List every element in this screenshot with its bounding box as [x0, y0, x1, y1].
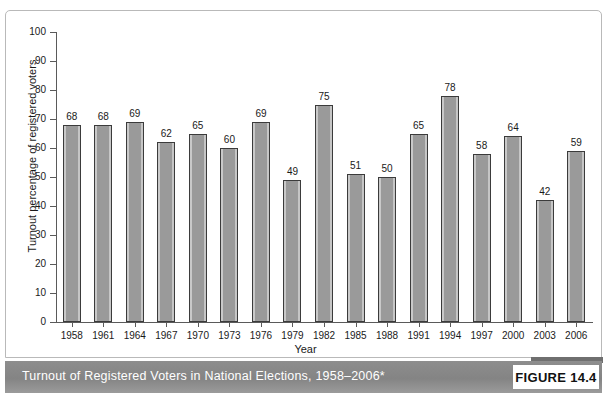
bar[interactable]: [504, 136, 522, 322]
bar[interactable]: [347, 174, 365, 322]
bar-group: 78: [441, 32, 459, 322]
bar-value-label: 62: [149, 129, 183, 139]
bar-value-label: 60: [212, 135, 246, 145]
x-axis-tick: [72, 323, 73, 327]
bar-value-label: 64: [496, 123, 530, 133]
bar-value-label: 78: [433, 83, 467, 93]
y-axis-tick: [50, 148, 56, 149]
y-axis-tick-label: 40: [6, 201, 46, 211]
bar-value-label: 65: [181, 121, 215, 131]
y-axis-tick: [50, 119, 56, 120]
y-axis-tick-label: 10: [6, 288, 46, 298]
bar-value-label: 49: [275, 167, 309, 177]
bar-group: 42: [536, 32, 554, 322]
bar[interactable]: [94, 125, 112, 322]
figure-container: Turnout percentage of registered voters …: [0, 0, 611, 403]
x-axis-title: Year: [0, 343, 611, 355]
y-axis-tick-label: 80: [6, 85, 46, 95]
figure-caption-bar: Turnout of Registered Voters in National…: [5, 361, 602, 393]
y-axis-tick: [50, 322, 56, 323]
bar[interactable]: [189, 134, 207, 323]
x-axis-tick: [261, 323, 262, 327]
bar[interactable]: [63, 125, 81, 322]
bar-value-label: 75: [307, 92, 341, 102]
y-axis-tick: [50, 293, 56, 294]
y-axis-tick: [50, 235, 56, 236]
y-axis-tick-label: 70: [6, 114, 46, 124]
bar-group: 58: [473, 32, 491, 322]
bar[interactable]: [536, 200, 554, 322]
bar-value-label: 68: [86, 112, 120, 122]
bar-value-label: 68: [55, 112, 89, 122]
bar-group: 69: [252, 32, 270, 322]
bar-value-label: 59: [559, 138, 593, 148]
x-axis-tick: [576, 323, 577, 327]
x-axis-tick: [482, 323, 483, 327]
bar-group: 62: [157, 32, 175, 322]
figure-caption-text: Turnout of Registered Voters in National…: [22, 369, 385, 383]
y-axis-tick-label: 100: [6, 27, 46, 37]
figure-badge-label: FIGURE 14.4: [515, 370, 596, 385]
bar-value-label: 50: [370, 164, 404, 174]
bar[interactable]: [410, 134, 428, 323]
x-axis-tick: [324, 323, 325, 327]
bar[interactable]: [441, 96, 459, 322]
bar-value-label: 69: [244, 109, 278, 119]
bar-group: 68: [94, 32, 112, 322]
plot-area: 6868696265606949755150657858644259: [56, 32, 592, 322]
bar-group: 51: [347, 32, 365, 322]
x-axis-tick: [513, 323, 514, 327]
x-axis-tick: [356, 323, 357, 327]
bar-group: 75: [315, 32, 333, 322]
bar[interactable]: [315, 105, 333, 323]
bar-group: 69: [126, 32, 144, 322]
bar-group: 59: [567, 32, 585, 322]
bar-group: 50: [378, 32, 396, 322]
y-axis-tick: [50, 206, 56, 207]
y-axis-tick-label: 50: [6, 172, 46, 182]
y-axis-tick: [50, 264, 56, 265]
figure-badge: FIGURE 14.4: [513, 365, 599, 389]
bar-group: 68: [63, 32, 81, 322]
x-axis-tick: [545, 323, 546, 327]
x-axis-tick: [387, 323, 388, 327]
bar[interactable]: [567, 151, 585, 322]
bar-value-label: 51: [339, 161, 373, 171]
bar-value-label: 42: [528, 187, 562, 197]
bar[interactable]: [473, 154, 491, 322]
y-axis-tick-label: 20: [6, 259, 46, 269]
y-axis-tick: [50, 61, 56, 62]
x-axis-tick: [419, 323, 420, 327]
x-axis-tick: [450, 323, 451, 327]
y-axis-tick: [50, 90, 56, 91]
bar-group: 65: [410, 32, 428, 322]
bar[interactable]: [252, 122, 270, 322]
bar[interactable]: [157, 142, 175, 322]
y-axis-tick: [50, 32, 56, 33]
x-axis-tick: [103, 323, 104, 327]
bar-value-label: 58: [465, 141, 499, 151]
bar-group: 60: [220, 32, 238, 322]
bar[interactable]: [283, 180, 301, 322]
y-axis-tick-label: 0: [6, 317, 46, 327]
x-axis-tick-label: 2006: [554, 330, 598, 341]
bar-value-label: 69: [118, 109, 152, 119]
y-axis-tick-label: 60: [6, 143, 46, 153]
x-axis-tick: [166, 323, 167, 327]
figure-footnote: [8, 394, 428, 403]
bar-group: 49: [283, 32, 301, 322]
y-axis-tick: [50, 177, 56, 178]
x-axis-tick: [135, 323, 136, 327]
bar-group: 65: [189, 32, 207, 322]
x-axis-tick: [198, 323, 199, 327]
bar[interactable]: [220, 148, 238, 322]
x-axis-tick: [229, 323, 230, 327]
x-axis-tick: [292, 323, 293, 327]
y-axis-tick-label: 90: [6, 56, 46, 66]
bar-value-label: 65: [402, 121, 436, 131]
bar-group: 64: [504, 32, 522, 322]
y-axis-tick-label: 30: [6, 230, 46, 240]
bar[interactable]: [378, 177, 396, 322]
bar[interactable]: [126, 122, 144, 322]
